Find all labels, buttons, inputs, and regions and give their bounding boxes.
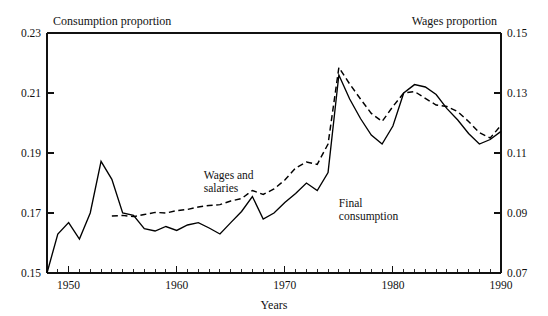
x-tick-label: 1980 xyxy=(381,279,404,291)
y-right-tick-label: 0.15 xyxy=(507,27,527,39)
data-series-group xyxy=(47,68,501,274)
y-left-tick-label: 0.15 xyxy=(21,267,41,279)
y-left-tick-label: 0.23 xyxy=(21,27,41,39)
x-tick-label: 1960 xyxy=(165,279,188,291)
series-line-solid xyxy=(47,75,501,273)
right-axis-caption: Wages proportion xyxy=(412,14,497,28)
y-left-tick-label: 0.21 xyxy=(21,87,41,99)
y-left-tick-label: 0.19 xyxy=(21,147,41,159)
series-annotation-label: consumption xyxy=(339,210,399,223)
axis-ticks-group xyxy=(47,33,501,273)
y-left-tick-label: 0.17 xyxy=(21,207,41,219)
left-axis-caption: Consumption proportion xyxy=(53,14,171,28)
axis-tick-labels-group: 195019601970198019900.150.170.190.210.23… xyxy=(21,27,528,291)
series-annotation-label: salaries xyxy=(204,182,239,194)
x-tick-label: 1990 xyxy=(490,279,513,291)
y-right-tick-label: 0.07 xyxy=(507,267,527,279)
series-line-dashed xyxy=(112,68,501,217)
series-annotations-group: Wages andsalariesFinalconsumption xyxy=(204,169,399,224)
series-annotation-label: Wages and xyxy=(204,169,254,182)
x-axis-title: Years xyxy=(261,298,288,312)
x-tick-label: 1970 xyxy=(273,279,296,291)
x-tick-label: 1950 xyxy=(57,279,80,291)
line-chart-svg: 195019601970198019900.150.170.190.210.23… xyxy=(0,0,548,316)
series-annotation-label: Final xyxy=(339,197,363,209)
y-right-tick-label: 0.09 xyxy=(507,207,527,219)
chart-container: 195019601970198019900.150.170.190.210.23… xyxy=(0,0,548,316)
y-right-tick-label: 0.13 xyxy=(507,87,527,99)
y-right-tick-label: 0.11 xyxy=(507,147,527,159)
